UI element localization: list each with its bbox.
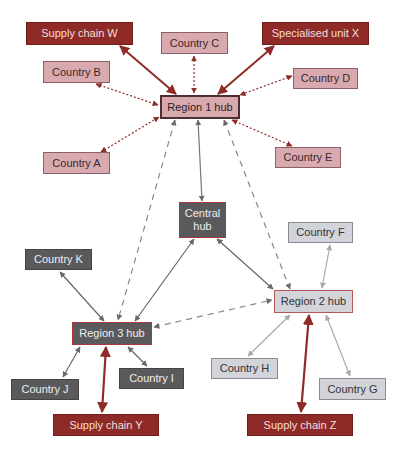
edge-region3-region2 (154, 300, 272, 327)
node-country-h: Country H (211, 358, 278, 379)
edge-country-h-region2 (248, 315, 290, 356)
edge-region1-central (198, 120, 202, 201)
edge-country-e-region1 (232, 120, 292, 146)
node-central-hub: Central hub (179, 202, 226, 238)
node-country-a: Country A (43, 152, 110, 174)
node-country-k: Country K (25, 249, 92, 270)
edge-supply-z-region2 (301, 315, 309, 412)
edge-country-g-region2 (326, 315, 350, 376)
node-region-1-hub: Region 1 hub (160, 95, 240, 119)
edge-central-region3 (135, 239, 194, 321)
node-country-d: Country D (293, 68, 358, 89)
node-country-b: Country B (43, 61, 110, 83)
edge-country-j-region3 (63, 347, 80, 377)
node-region-3-hub: Region 3 hub (72, 322, 152, 345)
edge-country-d-region1 (240, 76, 292, 95)
edge-region1-region2 (224, 120, 290, 289)
edge-country-k-region3 (60, 272, 104, 321)
node-region-2-hub: Region 2 hub (274, 290, 353, 313)
node-country-f: Country F (288, 222, 353, 243)
edge-central-region2 (217, 239, 273, 289)
node-country-e: Country E (275, 147, 341, 168)
edge-country-i-region3 (128, 347, 147, 366)
edge-country-f-region2 (322, 245, 330, 288)
node-supply-chain-w: Supply chain W (26, 22, 133, 45)
node-specialised-unit-x: Specialised unit X (262, 22, 369, 45)
edge-country-b-region1 (96, 84, 158, 105)
edge-country-a-region1 (101, 117, 159, 152)
edge-region1-region3 (118, 120, 175, 320)
edge-supply-y-region3 (102, 347, 106, 412)
node-supply-chain-z: Supply chain Z (247, 414, 353, 436)
node-country-c: Country C (161, 32, 228, 54)
node-country-i: Country I (119, 368, 184, 389)
node-country-j: Country J (11, 379, 79, 400)
node-supply-chain-y: Supply chain Y (53, 414, 159, 436)
node-country-g: Country G (319, 378, 386, 400)
